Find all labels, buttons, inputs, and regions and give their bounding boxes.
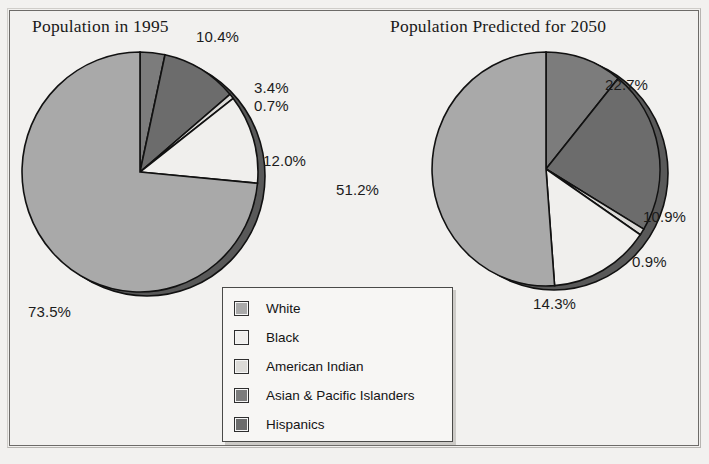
legend-swatch-icon (234, 388, 249, 403)
left-label-black: 12.0% (263, 152, 306, 169)
legend-item-label: Hispanics (266, 417, 325, 432)
legend-swatch-icon (234, 359, 249, 374)
right-label-black: 14.3% (533, 295, 576, 312)
left-chart-title: Population in 1995 (32, 16, 169, 37)
right-chart-title: Population Predicted for 2050 (390, 16, 606, 37)
legend-item: American Indian (234, 356, 364, 376)
legend-item: Hispanics (234, 414, 325, 434)
right-label-white: 51.2% (336, 181, 379, 198)
right-label-american-indian: 0.9% (632, 253, 667, 270)
pie-chart-1995 (18, 44, 278, 309)
right-label-asian-pacific: 22.7% (605, 76, 648, 93)
pie-slice (432, 52, 555, 286)
legend-item: Asian & Pacific Islanders (234, 385, 415, 405)
chart-legend: WhiteBlackAmerican IndianAsian & Pacific… (222, 287, 453, 442)
legend-item-label: Black (266, 330, 299, 345)
left-label-hispanics: 3.4% (254, 79, 289, 96)
left-label-asian-pacific: 10.4% (196, 28, 239, 45)
left-label-white: 73.5% (28, 303, 71, 320)
legend-item-label: White (266, 301, 301, 316)
legend-item-label: Asian & Pacific Islanders (266, 388, 415, 403)
figure-canvas: Population in 1995 10.4% 3.4% 0.7% 12.0%… (0, 0, 709, 464)
legend-swatch-icon (234, 301, 249, 316)
right-label-hispanics: 10.9% (643, 208, 686, 225)
legend-swatch-icon (234, 330, 249, 345)
legend-item: Black (234, 327, 299, 347)
legend-swatch-icon (234, 417, 249, 432)
legend-item-label: American Indian (266, 359, 364, 374)
legend-item: White (234, 298, 301, 318)
left-label-american-indian: 0.7% (254, 97, 289, 114)
